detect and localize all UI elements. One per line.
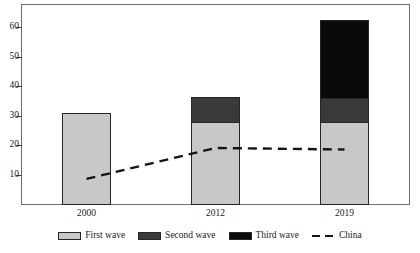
plot-frame: 102030405060 <box>21 4 410 205</box>
y-axis-tick-label: 30 <box>10 111 20 121</box>
bar-group[interactable] <box>191 5 240 204</box>
legend-label: First wave <box>85 231 125 241</box>
legend-swatch-third-wave <box>229 232 252 240</box>
x-axis-tick-label: 2012 <box>206 209 225 219</box>
bar-segment-third[interactable] <box>320 20 369 99</box>
legend-item[interactable]: Third wave <box>229 231 300 241</box>
legend-swatch-first-wave <box>58 232 81 240</box>
x-axis-tick-label: 2000 <box>77 209 96 219</box>
bar-group[interactable] <box>62 5 111 204</box>
bar-segment-first[interactable] <box>320 122 369 205</box>
bar-segment-first[interactable] <box>191 122 240 205</box>
legend-item[interactable]: Second wave <box>138 231 215 241</box>
bar-segment-second[interactable] <box>191 97 240 123</box>
y-axis-tick-label: 50 <box>10 52 20 62</box>
plot-area: 102030405060 <box>22 5 409 204</box>
y-axis-tick-label: 40 <box>10 81 20 91</box>
bar-group[interactable] <box>320 5 369 204</box>
y-axis-tick-label: 20 <box>10 140 20 150</box>
legend-label: China <box>339 231 362 241</box>
bar-segment-first[interactable] <box>62 113 111 205</box>
legend-item[interactable]: First wave <box>58 231 125 241</box>
legend-item[interactable]: China <box>312 231 362 241</box>
legend-swatch-second-wave <box>138 232 161 240</box>
bar-segment-second[interactable] <box>320 98 369 123</box>
chart-root: 102030405060 200020122019 First waveSeco… <box>0 0 420 253</box>
y-axis-tick-label: 60 <box>10 22 20 32</box>
chart-legend: First waveSecond waveThird waveChina <box>0 231 420 241</box>
legend-dashed-line-icon <box>312 232 335 240</box>
legend-label: Third wave <box>256 231 300 241</box>
x-axis-tick-label: 2019 <box>335 209 354 219</box>
legend-label: Second wave <box>165 231 215 241</box>
y-axis-tick-label: 10 <box>10 170 20 180</box>
